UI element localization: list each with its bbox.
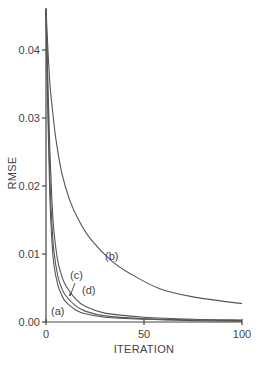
curve-label-c: (c) xyxy=(70,269,83,281)
y-axis-ticks: 0.000.010.020.030.04 xyxy=(19,44,46,328)
x-tick-label: 100 xyxy=(233,328,251,340)
x-tick-label: 50 xyxy=(138,328,150,340)
y-axis-label: RMSE xyxy=(6,157,18,190)
x-tick-label: 0 xyxy=(43,328,49,340)
rmse-iteration-chart: 0.000.010.020.030.04 050100 ITERATION RM… xyxy=(0,0,260,366)
x-axis-label: ITERATION xyxy=(114,343,175,355)
curve-b xyxy=(46,9,242,303)
y-tick-label: 0.01 xyxy=(19,248,40,260)
y-tick-label: 0.03 xyxy=(19,112,40,124)
y-tick-label: 0.00 xyxy=(19,316,40,328)
y-tick-label: 0.04 xyxy=(19,44,40,56)
curve-label-d: (d) xyxy=(82,284,95,296)
curve-label-a: (a) xyxy=(51,305,64,317)
curve-label-b: (b) xyxy=(105,250,118,262)
curve-c-arrow xyxy=(69,283,76,297)
y-tick-label: 0.02 xyxy=(19,180,40,192)
